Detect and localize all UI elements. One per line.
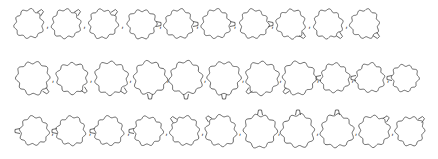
wavy-circle-shape — [95, 61, 129, 96]
comma-separator: , — [242, 75, 245, 84]
wavy-circle-shape — [127, 10, 157, 39]
wavy-circle-shape — [240, 9, 270, 39]
blob-row-3: ,,,,,,,,,, — [15, 110, 425, 148]
wavy-circle-shape — [205, 115, 237, 147]
comma-separator: , — [129, 75, 132, 84]
comma-separator: , — [271, 21, 274, 30]
comma-separator: , — [90, 75, 93, 84]
comma-separator: , — [345, 21, 348, 30]
wavy-circle-shape — [16, 62, 51, 95]
wavy-circle-shape — [320, 63, 350, 93]
shape-tail — [148, 94, 153, 99]
shape-tail — [258, 110, 263, 115]
comma-separator: , — [165, 128, 168, 137]
wavy-circle-shape — [355, 63, 385, 93]
wavy-circle-shape — [56, 62, 88, 94]
wavy-circle-shape — [94, 116, 124, 146]
blob-sequence-diagram: ,,,,,,,,,,,,,,,,,,,,,,,,,,,,, — [0, 0, 438, 159]
comma-separator: , — [355, 128, 358, 137]
wavy-circle-shape — [320, 114, 354, 148]
comma-separator: , — [279, 75, 282, 84]
comma-separator: , — [121, 21, 124, 30]
wavy-circle-shape — [395, 117, 425, 146]
wavy-circle-shape — [243, 114, 278, 148]
wavy-circle-shape — [56, 116, 86, 146]
wavy-circle-shape — [201, 9, 231, 39]
comma-separator: , — [196, 21, 199, 30]
wavy-circle-shape — [51, 9, 81, 39]
shape-tail — [222, 94, 227, 99]
comma-separator: , — [204, 75, 207, 84]
wavy-circle-shape — [170, 116, 200, 146]
comma-separator: , — [83, 21, 86, 30]
comma-separator: , — [201, 128, 204, 137]
wavy-circle-shape — [349, 9, 379, 39]
wavy-circle-shape — [280, 114, 314, 148]
wavy-circle-shape — [282, 61, 317, 95]
comma-separator: , — [46, 21, 49, 30]
wavy-circle-shape — [169, 60, 203, 94]
wavy-circle-shape — [314, 9, 344, 39]
shape-tail — [246, 88, 252, 94]
wavy-circle-shape — [207, 62, 242, 95]
comma-separator: , — [308, 21, 311, 30]
comma-separator: , — [239, 128, 242, 137]
blob-row-1: ,,,,,,,,, — [14, 9, 380, 40]
wavy-circle-shape — [89, 9, 119, 39]
wavy-circle-shape — [164, 9, 194, 39]
wavy-circle-shape — [133, 61, 167, 95]
wavy-circle-shape — [391, 64, 419, 91]
wavy-circle-shape — [359, 115, 391, 147]
comma-separator: , — [391, 128, 394, 137]
wavy-circle-shape — [246, 61, 280, 95]
comma-separator: , — [52, 75, 55, 84]
shape-tail — [418, 117, 424, 123]
shape-tail — [383, 116, 389, 122]
wavy-circle-shape — [19, 116, 49, 146]
shape-tail — [81, 87, 87, 93]
wavy-circle-shape — [134, 116, 164, 146]
wavy-circle-shape — [276, 9, 306, 39]
comma-separator: , — [234, 21, 237, 30]
wavy-circle-shape — [14, 9, 44, 39]
blob-row-2: ,,,,,,,,,, — [16, 60, 420, 99]
comma-separator: , — [316, 128, 319, 137]
comma-separator: , — [159, 21, 162, 30]
